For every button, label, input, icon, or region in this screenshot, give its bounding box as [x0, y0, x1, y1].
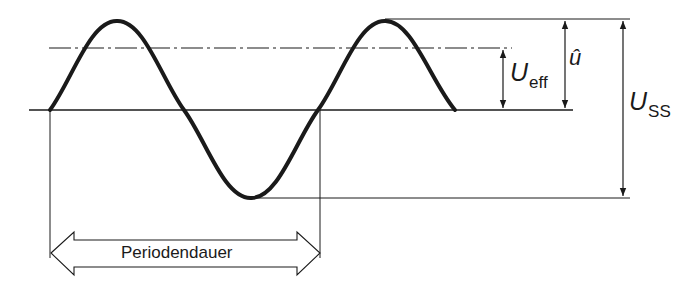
u-eff-label: Ueff	[510, 58, 548, 87]
period-text: Periodendauer	[121, 243, 233, 262]
sine-wave-diagram	[0, 0, 691, 297]
u-ss-subscript: SS	[648, 102, 671, 121]
u-ss-label: USS	[629, 87, 671, 116]
u-ss-symbol: U	[629, 87, 647, 115]
u-hat-label: û	[569, 45, 581, 71]
u-eff-subscript: eff	[529, 73, 548, 92]
period-label: Periodendauer	[121, 243, 233, 263]
u-hat-symbol: û	[569, 45, 581, 70]
u-eff-symbol: U	[510, 58, 528, 86]
